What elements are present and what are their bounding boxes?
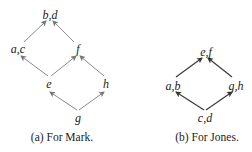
edge-e-f [51, 56, 76, 76]
diagram-mark: b,d a,c f e h g (a) For Mark. [11, 8, 109, 144]
edge-gh-ef [208, 58, 232, 77]
edge-ab-ef [176, 58, 202, 77]
edge-cd-ab [176, 92, 204, 110]
edge-cd-gh [206, 92, 232, 110]
node-a-c: a,c [11, 42, 26, 56]
node-g-h: g,h [229, 79, 244, 93]
node-g: g [75, 111, 81, 125]
node-a-b: a,b [166, 79, 181, 93]
diagram-jones: e,f a,b g,h c,d (b) For Jones. [166, 45, 244, 144]
caption-mark: (a) For Mark. [31, 131, 93, 144]
edge-g-h [79, 92, 104, 110]
node-e: e [46, 77, 52, 91]
node-c-d: c,d [198, 111, 213, 125]
edge-h-f [80, 56, 104, 76]
edge-ac-bd [24, 21, 46, 42]
edge-e-ac [21, 56, 48, 76]
node-f: f [76, 42, 81, 56]
edge-f-bd [53, 21, 74, 42]
node-e-f: e,f [200, 45, 213, 59]
caption-jones: (b) For Jones. [175, 131, 239, 144]
node-b-d: b,d [43, 8, 59, 22]
diagram-canvas: b,d a,c f e h g (a) For Mark. e,f a,b g,… [0, 0, 252, 152]
node-h: h [103, 77, 109, 91]
edge-g-e [50, 92, 77, 110]
